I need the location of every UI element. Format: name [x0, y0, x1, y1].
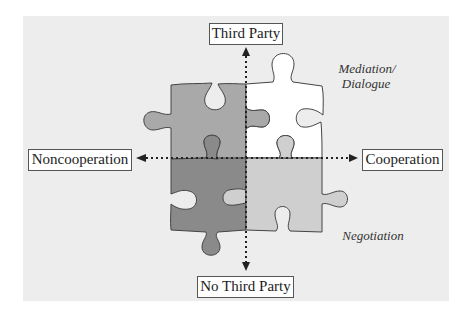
puzzle-notch-bottom-left	[223, 189, 246, 205]
quadrant-label-mediation-dialogue: Mediation/ Dialogue	[333, 61, 401, 91]
axis-label-cooperation: Cooperation	[362, 149, 443, 171]
arrow-left-icon	[136, 154, 146, 162]
quadrant-label-negotiation: Negotiation	[338, 228, 408, 243]
puzzle-piece-top-left	[144, 83, 246, 159]
axis-label-third-party: Third Party	[209, 23, 283, 45]
axis-label-noncooperation: Noncooperation	[28, 149, 132, 171]
arrow-down-icon	[242, 262, 250, 271]
puzzle-piece-bottom-left	[171, 158, 246, 255]
puzzle-piece-bottom-right	[246, 158, 348, 232]
quadrant-label-line-2: Dialogue	[331, 76, 401, 91]
arrow-right-icon	[349, 154, 358, 162]
puzzle-tab-top-right-left	[246, 108, 270, 129]
arrow-up-icon	[242, 47, 250, 56]
quadrant-label-line-1: Mediation/	[333, 61, 401, 76]
axis-label-no-third-party: No Third Party	[197, 276, 294, 298]
